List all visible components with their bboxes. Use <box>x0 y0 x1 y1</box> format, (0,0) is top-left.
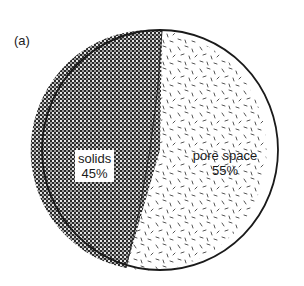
solids-label: solids 45% <box>75 150 114 182</box>
pore-space-name: pore space <box>182 148 268 163</box>
pore-space-percent: 55% <box>182 163 268 178</box>
solids-name: solids <box>78 151 111 166</box>
pore-space-label: pore space 55% <box>182 148 268 178</box>
pie-chart <box>0 0 304 286</box>
solids-percent: 45% <box>78 166 111 181</box>
